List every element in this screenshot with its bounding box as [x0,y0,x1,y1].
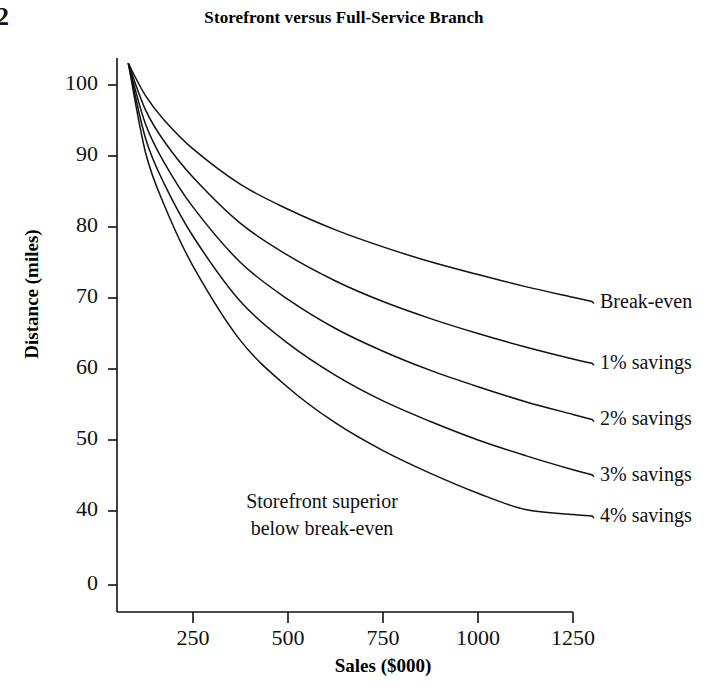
series-line [128,64,592,475]
y-axis-ticks [108,85,117,585]
y-tick-label: 50 [28,425,98,451]
plot-annotation: Storefront superior below break-even [222,488,422,542]
series-label: Break-even [600,290,692,313]
series-label: 2% savings [600,407,692,430]
x-axis-title: Sales ($000) [188,655,578,677]
x-tick-label: 250 [148,625,238,651]
series-label-leader-lines [592,302,594,518]
chart-plot-area [0,0,728,697]
x-tick-label: 1000 [433,625,523,651]
chart-series-lines [128,64,592,516]
series-label: 1% savings [600,351,692,374]
y-tick-label: 60 [28,354,98,380]
x-tick-label: 750 [338,625,428,651]
x-tick-label: 500 [243,625,333,651]
annotation-line-2: below break-even [222,515,422,542]
y-tick-label: 70 [28,283,98,309]
x-axis-ticks [193,612,573,623]
y-tick-label: 40 [28,496,98,522]
series-label: 4% savings [600,504,692,527]
series-line [128,64,592,420]
x-tick-label: 1250 [528,625,618,651]
y-tick-label: 0 [28,570,98,596]
annotation-line-1: Storefront superior [222,488,422,515]
series-label: 3% savings [600,463,692,486]
y-tick-label: 90 [28,141,98,167]
y-tick-label: 80 [28,212,98,238]
y-tick-label: 100 [28,70,98,96]
series-line [128,64,592,516]
